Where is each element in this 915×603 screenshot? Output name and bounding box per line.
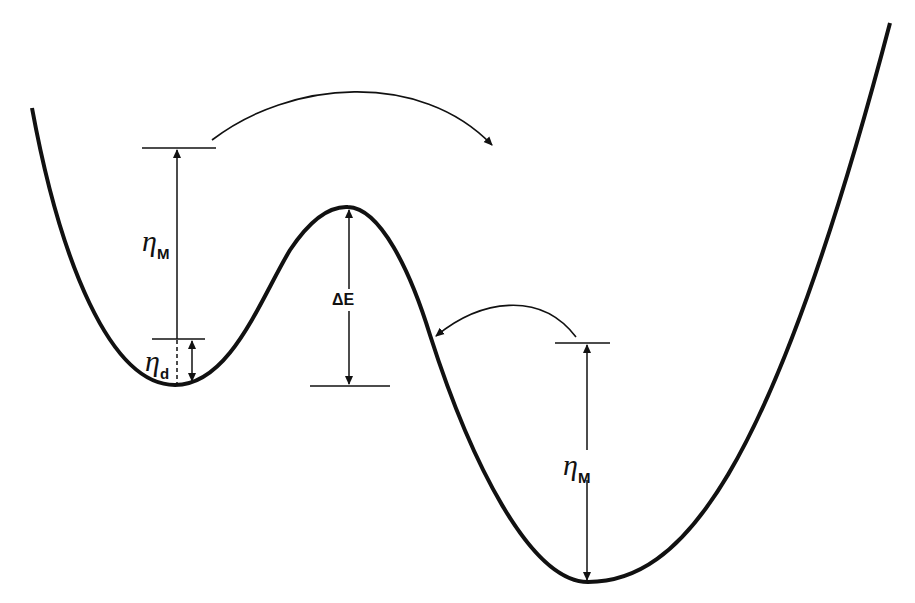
eta-m-left-symbol: η xyxy=(142,224,157,257)
eta-m-right-subscript: M xyxy=(578,469,591,486)
eta-d-subscript: d xyxy=(160,365,169,382)
diagram-svg xyxy=(0,0,915,603)
delta-e-label: ΔE xyxy=(332,289,354,311)
eta-d-symbol: η xyxy=(145,344,160,377)
eta-m-right-label: ηM xyxy=(562,450,591,480)
eta-m-right-symbol: η xyxy=(563,448,578,481)
potential-curve xyxy=(32,23,890,582)
transition-arrow-right-to-left xyxy=(436,305,576,337)
eta-m-left-label: ηM xyxy=(141,226,170,256)
eta-m-left-subscript: M xyxy=(157,245,170,262)
eta-d-label: ηd xyxy=(144,346,170,376)
transition-arrow-left-to-right xyxy=(212,92,492,145)
energy-diagram: ηM ηd ΔE ηM xyxy=(0,0,915,603)
